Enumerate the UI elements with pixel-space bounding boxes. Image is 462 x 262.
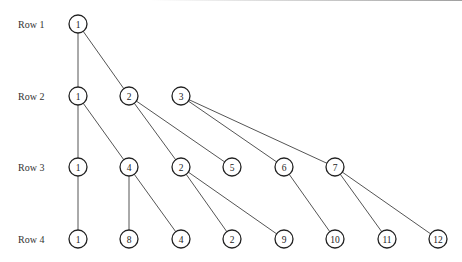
row-label-4: Row 4 [18,234,44,245]
node-label: 4 [127,163,132,173]
node-r4n9: 9 [275,230,293,248]
node-r4n11: 11 [378,230,396,248]
node-r2n1: 1 [69,87,87,105]
edge-r2n2-r3n2 [129,96,181,167]
node-label: 2 [127,92,132,102]
edges-layer [78,24,438,239]
node-r3n5: 5 [223,158,241,176]
node-label: 8 [127,235,132,245]
node-r3n2: 2 [172,158,190,176]
node-label: 3 [179,92,184,102]
node-r3n7: 7 [326,158,344,176]
node-r2n3: 3 [172,87,190,105]
node-label: 4 [179,235,184,245]
node-label: 2 [230,235,235,245]
node-r4n10: 10 [326,230,344,248]
node-r4n8: 8 [120,230,138,248]
edge-r2n3-r3n7 [181,96,335,167]
node-label: 11 [382,235,391,245]
node-r3n1: 1 [69,158,87,176]
node-label: 7 [333,163,338,173]
node-r4n1: 1 [69,230,87,248]
node-label: 2 [179,163,184,173]
node-r3n6: 6 [275,158,293,176]
node-label: 9 [282,235,287,245]
node-r4n4: 4 [172,230,190,248]
row-label-2: Row 2 [18,91,44,102]
node-label: 5 [230,163,235,173]
node-label: 6 [282,163,287,173]
node-r4n2: 2 [223,230,241,248]
row-label-3: Row 3 [18,162,44,173]
row-labels: Row 1Row 2Row 3Row 4 [18,19,44,245]
edge-r3n7-r4n11 [335,167,387,239]
node-label: 1 [76,20,81,30]
node-label: 12 [433,235,443,245]
edge-r2n1-r3n4 [78,96,129,167]
edge-r3n7-r4n12 [335,167,438,239]
edge-r2n3-r3n6 [181,96,284,167]
row-label-1: Row 1 [18,19,44,30]
node-r4n12: 12 [429,230,447,248]
node-r2n2: 2 [120,87,138,105]
edge-r3n6-r4n10 [284,167,335,239]
edge-r1n1-r2n2 [78,24,129,96]
node-r3n4: 4 [120,158,138,176]
node-label: 10 [330,235,340,245]
edge-r3n2-r4n2 [181,167,232,239]
node-label: 1 [76,235,81,245]
edge-r2n2-r3n5 [129,96,232,167]
node-label: 1 [76,92,81,102]
tree-diagram: Row 1Row 2Row 3Row 4 1123142567184291011… [0,0,462,262]
edge-r3n2-r4n9 [181,167,284,239]
node-label: 1 [76,163,81,173]
edge-r3n4-r4n4 [129,167,181,239]
node-r1n1: 1 [69,15,87,33]
